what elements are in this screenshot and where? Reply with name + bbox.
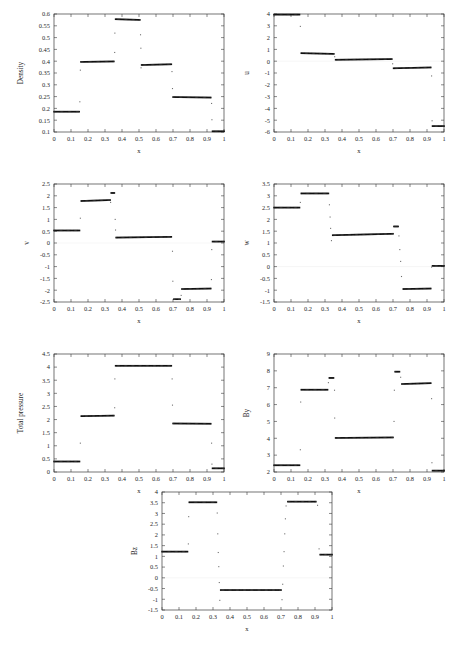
y-tick-label: 7 [267,384,271,391]
x-tick-label: 0.6 [372,135,380,142]
y-tick-label: 0.5 [42,455,50,462]
y-tick-label: 0.4 [42,58,51,65]
x-tick-label: 0.8 [406,135,414,142]
plot-u: 00.10.20.30.40.50.60.70.80.91-6-5-4-3-2-… [234,8,454,158]
y-tick-label: -2 [265,81,270,88]
y-axis-title: w [243,240,251,246]
x-tick-label: 0.2 [84,135,92,142]
y-tick-label: -1 [45,263,50,270]
x-tick-label: 0.7 [389,305,398,312]
x-tick-label: 0.9 [423,305,431,312]
y-tick-label: -0.5 [40,251,50,258]
x-axis-title: x [245,625,249,632]
y-tick-label: -2 [45,287,50,294]
y-tick-label: -1 [153,596,158,603]
y-tick-label: 0 [267,263,270,270]
y-tick-label: 4 [155,488,159,495]
x-tick-label: 0.4 [226,613,235,620]
y-axis-title: By [243,408,251,417]
x-tick-label: 0.4 [338,135,347,142]
x-tick-label: 0.1 [175,613,183,620]
y-tick-label: 3 [155,510,158,517]
x-axis-title: x [137,317,141,324]
x-tick-label: 0.8 [186,135,194,142]
y-tick-label: -1 [265,287,270,294]
x-tick-label: 0.8 [406,305,414,312]
y-tick-label: 0.2 [42,105,50,112]
x-tick-label: 0.9 [311,613,319,620]
y-tick-label: 3 [267,22,270,29]
x-tick-label: 0.7 [389,135,398,142]
x-tick-label: 0.8 [294,613,302,620]
panel-total-pressure: 00.10.20.30.40.50.60.70.80.9100.511.522.… [14,348,234,498]
x-tick-label: 0.5 [135,305,143,312]
y-tick-label: 1.5 [150,542,158,549]
plot-v: 00.10.20.30.40.50.60.70.80.91-2.5-2-1.5-… [14,178,234,328]
x-tick-label: 0.4 [118,305,127,312]
x-tick-label: 0.6 [260,613,268,620]
x-tick-label: 1 [442,305,445,312]
x-tick-label: 0.1 [287,135,295,142]
plot-Bz: 00.10.20.30.40.50.60.70.80.91-1.5-1-0.50… [122,486,342,636]
x-tick-label: 0.3 [321,135,329,142]
y-tick-label: 0 [155,574,158,581]
x-tick-label: 0 [52,305,55,312]
x-tick-label: 1 [222,475,225,482]
y-axis-title: u [243,71,251,75]
x-tick-label: 0.9 [203,475,211,482]
x-tick-label: 0.2 [84,475,92,482]
y-tick-label: 1.5 [262,228,270,235]
x-tick-label: 0.3 [321,305,329,312]
x-tick-label: 0.5 [355,305,363,312]
y-tick-label: 6 [267,401,270,408]
y-tick-label: 0.45 [39,46,50,53]
y-tick-label: -1.5 [40,275,50,282]
x-tick-label: 0.5 [355,135,363,142]
x-tick-label: 0.9 [423,135,431,142]
y-tick-label: 2 [267,34,270,41]
y-tick-label: 3 [267,451,270,458]
y-tick-label: 2 [47,416,50,423]
y-tick-label: -1 [265,69,270,76]
y-tick-label: 0.6 [42,10,50,17]
y-tick-label: 4.5 [42,350,50,357]
y-tick-label: 1 [47,442,50,449]
y-tick-label: 3 [47,390,50,397]
y-tick-label: 2 [267,216,270,223]
y-axis-title: v [23,241,31,245]
y-tick-label: -0.5 [148,585,158,592]
x-tick-label: 0 [272,475,275,482]
panel-w: 00.10.20.30.40.50.60.70.80.91-1.5-1-0.50… [234,178,454,328]
y-tick-label: 0.15 [39,117,50,124]
x-tick-label: 0 [272,135,275,142]
x-tick-label: 0.4 [118,475,127,482]
y-tick-label: 1 [267,46,270,53]
y-tick-label: -4 [265,105,271,112]
y-tick-label: 2.5 [262,204,270,211]
mhd-shock-tube-figure: 00.10.20.30.40.50.60.70.80.910.10.150.20… [0,0,465,648]
x-tick-label: 0 [52,135,55,142]
panel-Bz: 00.10.20.30.40.50.60.70.80.91-1.5-1-0.50… [122,486,342,636]
x-tick-label: 0.9 [423,475,431,482]
y-tick-label: 3.5 [42,377,50,384]
y-tick-label: 3 [267,192,270,199]
y-tick-label: 1 [47,216,50,223]
x-tick-label: 1 [222,305,225,312]
x-tick-label: 0.2 [304,305,312,312]
y-tick-label: 1 [155,553,158,560]
y-tick-label: -1.5 [148,606,158,613]
x-axis-title: x [357,317,361,324]
x-tick-label: 1 [222,135,225,142]
x-tick-label: 0.2 [84,305,92,312]
x-tick-label: 0.8 [186,475,194,482]
y-tick-label: 0.5 [150,563,158,570]
x-tick-label: 0.4 [118,135,127,142]
x-tick-label: 0.1 [67,305,75,312]
y-tick-label: 9 [267,350,270,357]
y-tick-label: 4 [267,435,271,442]
panel-v: 00.10.20.30.40.50.60.70.80.91-2.5-2-1.5-… [14,178,234,328]
y-tick-label: 0.5 [42,34,50,41]
x-tick-label: 0.7 [277,613,286,620]
x-tick-label: 0.7 [169,305,178,312]
x-tick-label: 0.7 [169,475,178,482]
